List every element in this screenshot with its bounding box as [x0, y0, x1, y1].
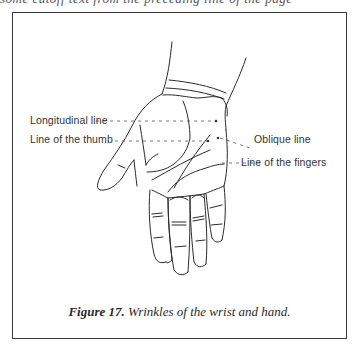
label-line-of-thumb: Line of the thumb [30, 133, 113, 145]
label-oblique-line: Oblique line [254, 133, 311, 145]
figure-number: Figure 17. [68, 304, 124, 319]
label-longitudinal-line: Longitudinal line [30, 114, 108, 126]
figure-caption-text: Wrinkles of the wrist and hand. [125, 304, 291, 319]
label-line-of-fingers: Line of the fingers [241, 156, 326, 168]
figure-caption: Figure 17. Wrinkles of the wrist and han… [0, 304, 359, 320]
hand-illustration [0, 0, 359, 352]
